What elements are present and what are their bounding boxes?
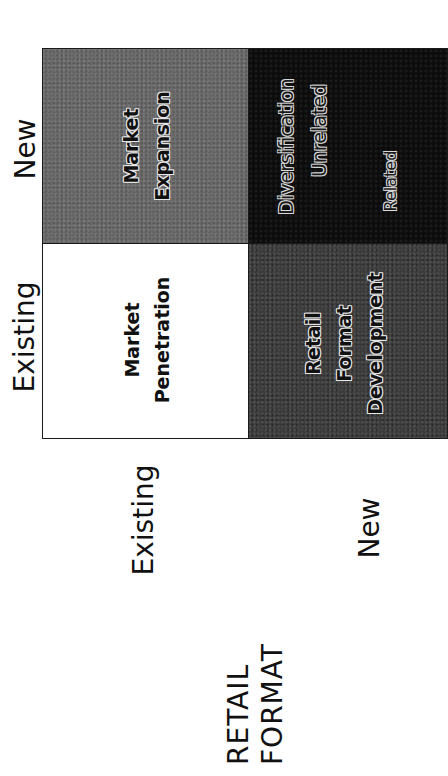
cell-market-penetration: Market Penetration xyxy=(42,243,249,439)
related-label: Related xyxy=(377,141,405,221)
label-line: Market xyxy=(117,270,147,410)
unrelated-label: Unrelated xyxy=(304,76,335,186)
row-axis-title: RETAIL FORMAT xyxy=(222,625,292,765)
row-header-new: New xyxy=(353,488,387,568)
axis-title-text: RETAIL FORMAT xyxy=(222,645,290,765)
column-header-existing: Existing xyxy=(8,277,42,397)
column-header-new: New xyxy=(9,109,43,189)
label-line: Market xyxy=(116,76,147,216)
label-line: Expansion xyxy=(147,76,178,216)
row-header-existing: Existing xyxy=(127,460,161,580)
label-line: Development xyxy=(360,269,391,419)
label-line: Penetration xyxy=(147,270,177,410)
market-expansion-label: Market Expansion xyxy=(116,76,178,216)
market-penetration-label: Market Penetration xyxy=(117,270,177,410)
retail-format-development-label: Retail Format Development xyxy=(298,269,391,419)
label-line: Retail xyxy=(298,269,329,419)
cell-market-expansion: Market Expansion xyxy=(42,48,249,244)
cell-diversification: Diversification Unrelated Related xyxy=(248,48,448,244)
label-line: Format xyxy=(329,269,360,419)
cell-retail-format-development: Retail Format Development xyxy=(248,243,448,439)
diversification-label: Diversification xyxy=(271,57,302,237)
